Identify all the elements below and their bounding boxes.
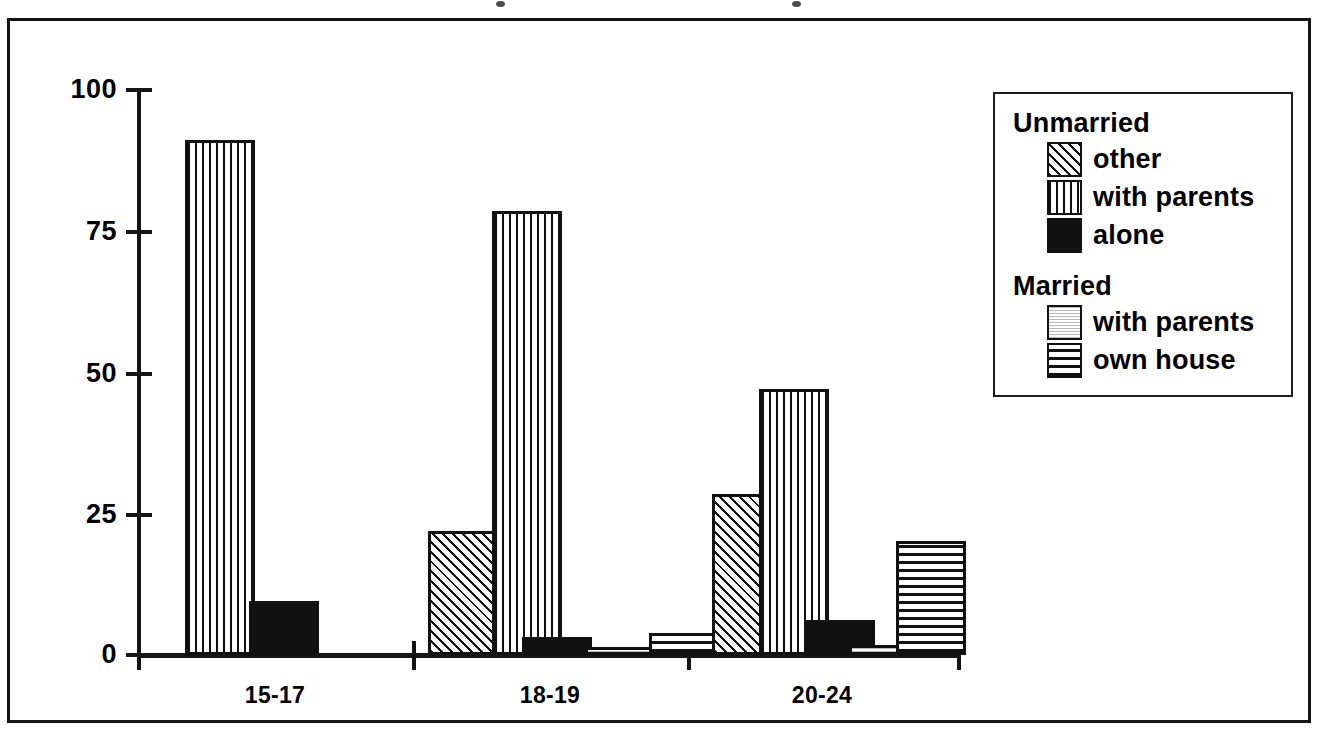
legend-item-unmarried-with-parents[interactable]: with parents bbox=[1047, 180, 1291, 215]
bar-20-24-married-own-house bbox=[896, 541, 966, 655]
legend: Unmarried other with parents alone Marri… bbox=[993, 92, 1293, 397]
legend-label-married-with-parents: with parents bbox=[1093, 309, 1254, 336]
legend-group-title-married: Married bbox=[1013, 271, 1291, 303]
bar-15-17-unmarried-with-parents bbox=[185, 140, 255, 655]
diagonal-hatch-swatch-icon bbox=[1047, 142, 1082, 177]
legend-item-unmarried-other[interactable]: other bbox=[1047, 142, 1291, 177]
x-axis-label-18-19: 18-19 bbox=[470, 682, 630, 709]
legend-item-unmarried-alone[interactable]: alone bbox=[1047, 218, 1291, 253]
chart-page: 100 75 50 25 0 15-17 18-19 20-24 bbox=[0, 0, 1320, 734]
legend-item-married-own-house[interactable]: own house bbox=[1047, 343, 1291, 378]
horizontal-lines-swatch-icon bbox=[1047, 343, 1082, 378]
bar-20-24-unmarried-with-parents bbox=[759, 389, 829, 655]
x-axis-label-20-24: 20-24 bbox=[742, 682, 902, 709]
vertical-lines-swatch-icon bbox=[1047, 180, 1082, 215]
legend-label-married-own-house: own house bbox=[1093, 347, 1236, 374]
legend-label-unmarried-with-parents: with parents bbox=[1093, 184, 1254, 211]
bar-18-19-unmarried-other bbox=[428, 531, 498, 655]
legend-item-married-with-parents[interactable]: with parents bbox=[1047, 305, 1291, 340]
bar-15-17-unmarried-alone bbox=[249, 601, 319, 655]
bar-18-19-married-with-parents bbox=[585, 647, 655, 655]
bar-18-19-unmarried-alone bbox=[522, 637, 592, 655]
gray-stipple-swatch-icon bbox=[1047, 305, 1082, 340]
legend-group-title-unmarried: Unmarried bbox=[1013, 108, 1291, 140]
legend-label-unmarried-other: other bbox=[1093, 146, 1162, 173]
legend-label-unmarried-alone: alone bbox=[1093, 222, 1165, 249]
bar-18-19-married-own-house bbox=[649, 633, 719, 655]
x-axis-label-15-17: 15-17 bbox=[195, 682, 355, 709]
bar-18-19-unmarried-with-parents bbox=[492, 211, 562, 655]
solid-black-swatch-icon bbox=[1047, 218, 1082, 253]
